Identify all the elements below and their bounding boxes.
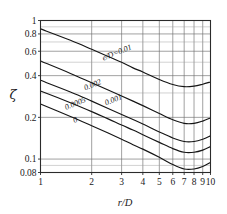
x-tick-label: 7 — [182, 177, 187, 187]
x-tick-label: 5 — [157, 177, 162, 187]
x-tick-label: 9 — [200, 177, 205, 187]
x-tick-label: 6 — [170, 177, 175, 187]
y-tick-label: 0.4 — [25, 71, 37, 81]
y-tick-label: 0.1 — [25, 154, 37, 164]
y-tick-label: 0.2 — [25, 113, 37, 123]
x-tick-label: 3 — [119, 177, 124, 187]
x-tick-label: 4 — [140, 177, 145, 187]
y-axis-title: ζ — [9, 87, 17, 102]
loss-coefficient-chart: 12345678910 10.80.60.40.20.10.08 e/D=0.0… — [0, 0, 227, 214]
y-tick-label: 1 — [32, 16, 37, 26]
x-tick-label: 1 — [38, 177, 43, 187]
x-tick-label: 8 — [192, 177, 197, 187]
y-tick-label: 0.8 — [25, 29, 37, 39]
y-tick-label: 0.6 — [25, 47, 37, 57]
chart-figure: 12345678910 10.80.60.40.20.10.08 e/D=0.0… — [0, 0, 227, 214]
y-tick-label: 0.08 — [20, 168, 37, 178]
x-axis-title: r/D — [118, 197, 133, 208]
x-tick-label: 2 — [89, 177, 94, 187]
x-tick-label: 10 — [206, 177, 216, 187]
